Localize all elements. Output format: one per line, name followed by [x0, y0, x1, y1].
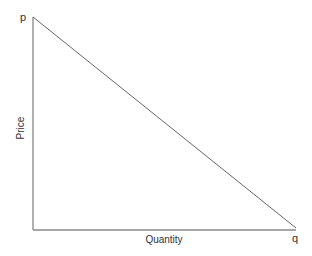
demand-line — [33, 17, 296, 228]
x-intercept-label: q — [292, 232, 298, 244]
price-quantity-diagram: p q Price Quantity — [0, 0, 312, 256]
y-intercept-label: p — [20, 11, 26, 23]
y-axis-title: Price — [15, 116, 26, 139]
x-axis-title: Quantity — [145, 234, 182, 245]
